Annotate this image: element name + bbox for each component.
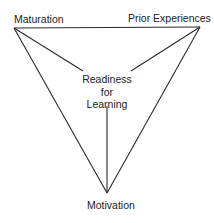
node-readiness-for-learning: Readiness for Learning	[77, 73, 137, 111]
center-line-3: Learning	[77, 98, 137, 111]
node-maturation: Maturation	[14, 13, 64, 25]
node-motivation: Motivation	[87, 199, 135, 211]
center-line-1: Readiness	[77, 73, 137, 86]
edge-maturation-motivation	[14, 28, 107, 193]
center-line-2: for	[77, 86, 137, 99]
edge-maturation-prior	[14, 27, 200, 28]
edge-prior-readiness	[131, 27, 200, 71]
triangle-diagram	[0, 0, 214, 223]
node-prior-experiences: Prior Experiences	[128, 12, 211, 24]
edge-maturation-readiness	[14, 28, 83, 71]
